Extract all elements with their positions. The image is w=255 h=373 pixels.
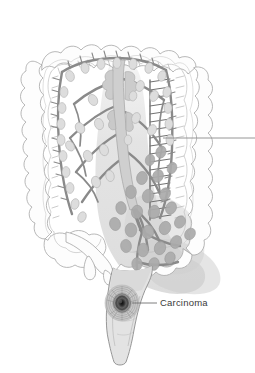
label-carcinoma: Carcinoma [160,297,208,308]
colon-anatomy-illustration: Carcinoma [0,0,255,373]
figure-root: Carcinoma [0,0,255,373]
